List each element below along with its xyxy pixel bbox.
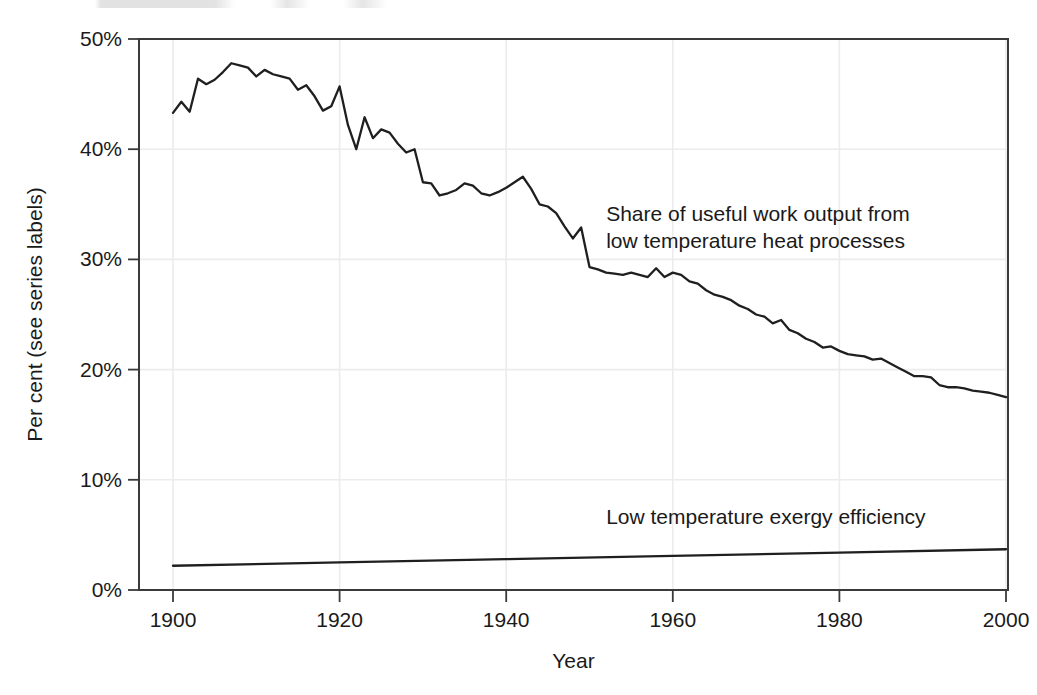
- series-line-1: [173, 549, 1006, 566]
- y-tick-label: 20%: [80, 358, 122, 381]
- x-tick-label: 1900: [150, 608, 197, 631]
- y-tick-label: 30%: [80, 247, 122, 270]
- y-tick-label: 0%: [92, 578, 122, 601]
- x-tick-label: 2000: [983, 608, 1030, 631]
- y-tick-label: 10%: [80, 468, 122, 491]
- x-tick-label: 1980: [816, 608, 863, 631]
- x-tick-label: 1940: [483, 608, 530, 631]
- y-axis-title: Per cent (see series labels): [23, 187, 46, 441]
- chart-figure: 0%10%20%30%40%50%19001920194019601980200…: [0, 0, 1037, 695]
- share-useful-work-label: Share of useful work output from: [606, 202, 910, 225]
- x-axis-title: Year: [552, 649, 594, 672]
- share-useful-work-label: low temperature heat processes: [606, 229, 905, 252]
- line-chart: 0%10%20%30%40%50%19001920194019601980200…: [0, 0, 1037, 695]
- x-tick-label: 1960: [649, 608, 696, 631]
- low-temp-exergy-label: Low temperature exergy efficiency: [606, 505, 926, 528]
- y-tick-label: 50%: [80, 27, 122, 50]
- x-tick-label: 1920: [316, 608, 363, 631]
- y-tick-label: 40%: [80, 137, 122, 160]
